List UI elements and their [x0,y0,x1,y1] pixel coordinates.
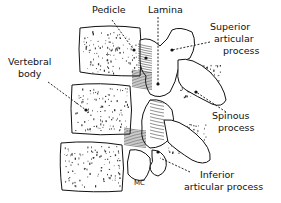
posterior-elements [127,28,226,180]
label-spinous-1: Spinous [212,110,250,121]
vertebral-body-lower [60,142,123,192]
label-lamina: Lamina [148,4,183,15]
artist-signature: MC [134,179,145,187]
label-superior-articular-3: process [223,45,260,56]
label-inferior-articular-1: Inferior [200,169,234,180]
label-superior-articular-1: Superior [210,21,250,32]
label-superior-articular-2: articular [214,33,254,44]
vertebral-body-middle [71,84,132,135]
vertebrae-diagram: Pedicle Lamina Superior articular proces… [0,0,281,203]
label-pedicle: Pedicle [92,4,126,15]
label-inferior-articular-2: articular process [184,181,263,192]
label-vertebral-body-2: body [18,68,42,79]
label-spinous-2: process [218,122,255,133]
label-vertebral-body-1: Vertebral [8,56,51,67]
